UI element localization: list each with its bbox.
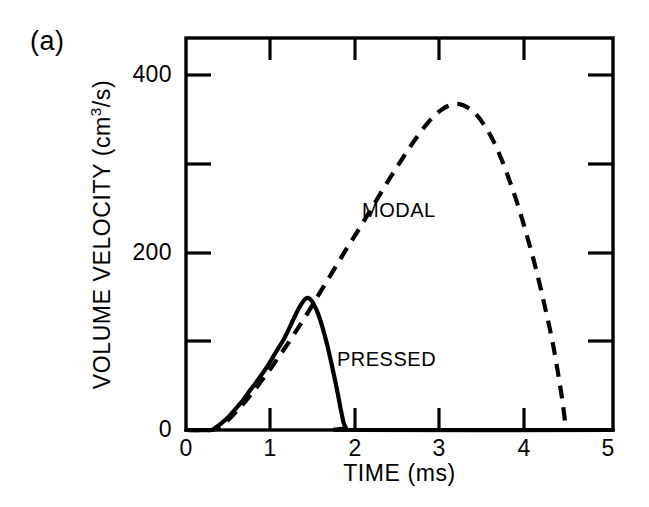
y-axis-ticks	[186, 75, 613, 341]
series-line-modal	[186, 104, 566, 430]
series-line-pressed	[186, 298, 613, 430]
plot-area	[0, 0, 649, 507]
plot-frame	[186, 38, 613, 430]
figure-panel-a: (a) VOLUME VELOCITY (cm3/s) TIME (ms) 0 …	[0, 0, 649, 507]
x-axis-ticks	[270, 38, 524, 430]
axes-frame	[186, 38, 613, 430]
